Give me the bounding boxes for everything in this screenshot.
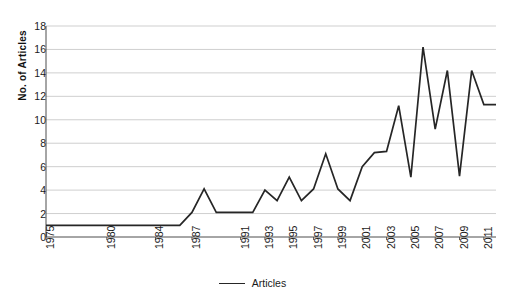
legend-label: Articles [252, 277, 286, 289]
series-line-articles [46, 47, 496, 225]
plot-area [0, 0, 505, 298]
chart-legend: Articles [0, 277, 505, 289]
chart-figure: No. of Articles 024681012141618 19751980… [0, 0, 505, 298]
legend-line-swatch [219, 283, 245, 284]
